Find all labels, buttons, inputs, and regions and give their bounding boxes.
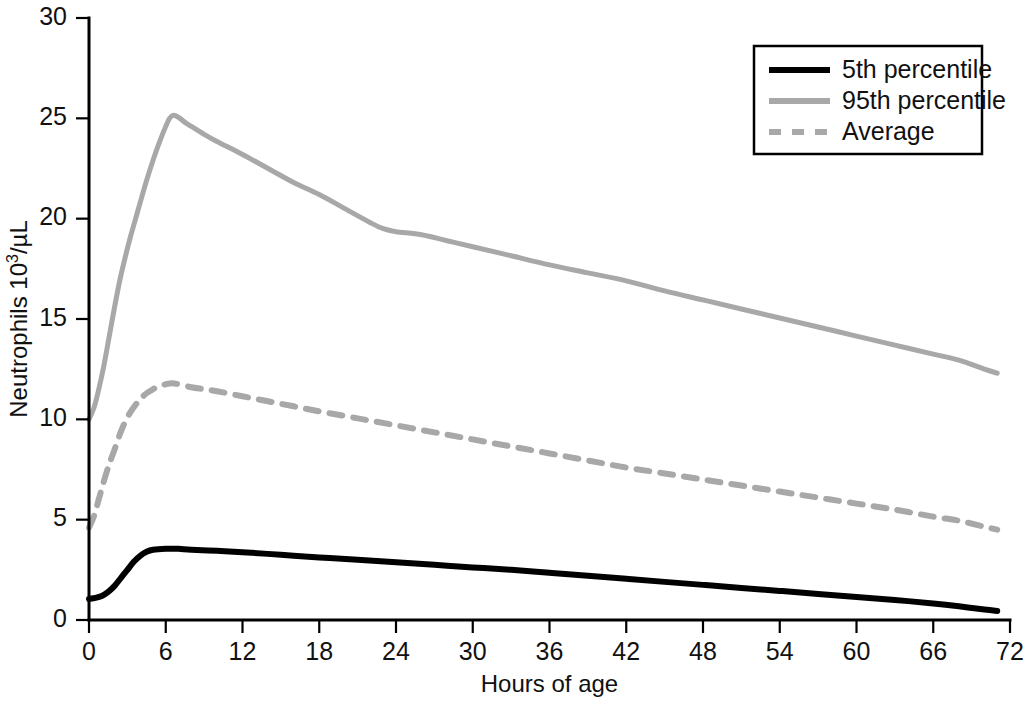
chart-legend[interactable]: 5th percentile95th percentileAverage	[754, 46, 1006, 154]
series-group	[89, 115, 997, 611]
x-tick-label: 0	[82, 637, 96, 665]
x-tick-label: 48	[689, 637, 717, 665]
legend-label-5th-percentile[interactable]: 5th percentile	[842, 55, 992, 83]
chart-canvas: 061218243036424854606672 051015202530 5t…	[0, 0, 1031, 710]
x-tick-label: 72	[996, 637, 1024, 665]
x-tick-label: 30	[459, 637, 487, 665]
y-tick-label: 20	[39, 202, 67, 230]
y-axis-title-base: Neutrophils 10	[5, 263, 32, 418]
y-tick-label: 30	[39, 2, 67, 30]
x-tick-label: 18	[305, 637, 333, 665]
x-tick-label: 12	[229, 637, 257, 665]
legend-label-95th-percentile[interactable]: 95th percentile	[842, 86, 1006, 114]
series-line-95th-percentile	[89, 115, 997, 419]
y-axis-title-tail: /µL	[5, 220, 32, 254]
y-axis-title-exponent: 3	[4, 254, 21, 263]
x-tick-label: 42	[612, 637, 640, 665]
y-tick-label: 15	[39, 303, 67, 331]
y-axis-title-text: Neutrophils 103/µL	[4, 220, 32, 418]
x-tick-label: 60	[843, 637, 871, 665]
y-axis-title: Neutrophils 103/µL	[4, 220, 32, 418]
y-tick-label: 25	[39, 102, 67, 130]
series-line-5th-percentile	[89, 549, 997, 611]
legend-label-average[interactable]: Average	[842, 117, 935, 145]
y-tick-label: 0	[53, 604, 67, 632]
x-tick-label: 24	[382, 637, 410, 665]
x-tick-label: 54	[766, 637, 794, 665]
y-axis-ticks: 051015202530	[39, 2, 89, 632]
x-tick-label: 36	[536, 637, 564, 665]
x-tick-label: 6	[159, 637, 173, 665]
y-tick-label: 10	[39, 403, 67, 431]
series-line-average	[89, 383, 997, 529]
neutrophil-chart: 061218243036424854606672 051015202530 5t…	[0, 0, 1031, 710]
y-tick-label: 5	[53, 503, 67, 531]
x-axis-title: Hours of age	[481, 670, 618, 697]
x-axis-ticks: 061218243036424854606672	[82, 620, 1024, 665]
x-tick-label: 66	[919, 637, 947, 665]
